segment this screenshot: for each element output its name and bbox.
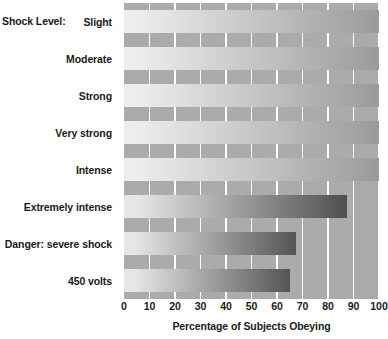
x-tick-label: 60 — [271, 300, 283, 312]
bar-slot — [124, 10, 379, 32]
category-label-row: Extremely intense — [0, 188, 118, 225]
bar[interactable] — [124, 232, 296, 254]
x-axis-title: Percentage of Subjects Obeying — [124, 320, 379, 332]
category-label-row: Danger: severe shock — [0, 225, 118, 262]
x-tick-label: 50 — [246, 300, 258, 312]
category-label: Extremely intense — [24, 201, 112, 213]
bar[interactable] — [124, 47, 379, 69]
category-label-column: Shock Level: SlightModerateStrongVery st… — [0, 3, 118, 299]
category-label: Strong — [79, 90, 112, 102]
x-tick-label: 70 — [297, 300, 309, 312]
bar[interactable] — [124, 269, 290, 291]
bar[interactable] — [124, 195, 347, 217]
category-label-row: Strong — [0, 77, 118, 114]
x-tick-label: 10 — [144, 300, 156, 312]
category-label-row: Intense — [0, 151, 118, 188]
x-tick-label: 0 — [121, 300, 127, 312]
category-label: 450 volts — [68, 275, 112, 287]
bar-slot — [124, 47, 379, 69]
bar-slot — [124, 121, 379, 143]
bar-slot — [124, 269, 379, 291]
x-axis-ticks: 0102030405060708090100 — [124, 300, 379, 318]
plot-area — [124, 3, 379, 299]
category-label: Intense — [76, 164, 112, 176]
bar[interactable] — [124, 158, 379, 180]
bar[interactable] — [124, 121, 379, 143]
x-tick-label: 100 — [370, 300, 388, 312]
category-label-row: Moderate — [0, 40, 118, 77]
category-label: Danger: severe shock — [5, 238, 112, 250]
bar-slot — [124, 84, 379, 106]
category-label-row: Slight — [0, 3, 118, 40]
bar-slot — [124, 195, 379, 217]
x-tick-label: 40 — [220, 300, 232, 312]
x-tick-label: 90 — [348, 300, 360, 312]
category-label: Moderate — [66, 53, 112, 65]
x-tick-label: 20 — [169, 300, 181, 312]
category-label: Very strong — [55, 127, 112, 139]
bar[interactable] — [124, 10, 379, 32]
category-label-row: 450 volts — [0, 262, 118, 299]
category-label: Slight — [83, 16, 112, 28]
bar[interactable] — [124, 84, 379, 106]
x-tick-label: 30 — [195, 300, 207, 312]
bar-slot — [124, 232, 379, 254]
category-label-row: Very strong — [0, 114, 118, 151]
x-tick-label: 80 — [322, 300, 334, 312]
bar-slot — [124, 158, 379, 180]
